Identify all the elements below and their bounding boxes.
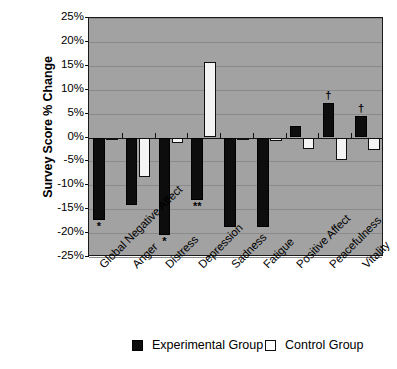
bar-experimental[interactable] bbox=[355, 116, 367, 138]
y-tick-label: -15% bbox=[40, 201, 84, 213]
gridline bbox=[89, 18, 382, 19]
y-tick-label: 20% bbox=[40, 34, 84, 46]
bar-control[interactable] bbox=[270, 138, 282, 142]
x-tick-mark bbox=[187, 133, 188, 138]
legend-label: Experimental Group bbox=[152, 338, 263, 352]
y-tick-label: -20% bbox=[40, 225, 84, 237]
bar-experimental[interactable] bbox=[224, 138, 236, 227]
y-tick-label: -5% bbox=[40, 153, 84, 165]
x-tick-mark bbox=[220, 133, 221, 138]
bar-experimental[interactable] bbox=[290, 126, 302, 138]
x-tick-mark bbox=[351, 133, 352, 138]
x-tick-mark bbox=[286, 133, 287, 138]
y-tick-label: 5% bbox=[40, 106, 84, 118]
gridline bbox=[89, 42, 382, 43]
bar-experimental[interactable] bbox=[191, 138, 203, 200]
bar-control[interactable] bbox=[303, 138, 315, 150]
gridline bbox=[89, 114, 382, 115]
x-tick-mark bbox=[122, 133, 123, 138]
y-tick-label: 15% bbox=[40, 58, 84, 70]
bar-experimental[interactable] bbox=[323, 103, 335, 138]
x-tick-mark bbox=[155, 133, 156, 138]
legend-label: Control Group bbox=[285, 338, 364, 352]
bar-experimental[interactable] bbox=[257, 138, 269, 227]
y-tick-label: -25% bbox=[40, 249, 84, 261]
significance-marker: * bbox=[87, 221, 111, 232]
x-tick-mark bbox=[253, 133, 254, 138]
bar-experimental[interactable] bbox=[159, 138, 171, 235]
bar-control[interactable] bbox=[336, 138, 348, 161]
bar-control[interactable] bbox=[139, 138, 151, 178]
bar-chart: Survey Score % Change 25%20%15%10%5%0%-5… bbox=[0, 0, 397, 369]
bar-experimental[interactable] bbox=[93, 138, 105, 221]
control-swatch bbox=[265, 340, 276, 351]
gridline bbox=[89, 66, 382, 67]
y-tick-label: 10% bbox=[40, 82, 84, 94]
bar-control[interactable] bbox=[368, 138, 380, 151]
bar-experimental[interactable] bbox=[126, 138, 138, 206]
x-tick-mark bbox=[318, 133, 319, 138]
significance-marker: ** bbox=[185, 201, 209, 212]
y-tick-label: 25% bbox=[40, 10, 84, 22]
legend-entry[interactable]: Experimental Group bbox=[132, 336, 263, 354]
bar-control[interactable] bbox=[172, 138, 184, 144]
bar-control[interactable] bbox=[106, 138, 118, 140]
chart-legend: Experimental GroupControl Group bbox=[0, 336, 397, 358]
bar-control[interactable] bbox=[204, 62, 216, 137]
significance-marker: † bbox=[349, 103, 373, 114]
significance-marker: † bbox=[316, 90, 340, 101]
legend-entry[interactable]: Control Group bbox=[265, 336, 364, 354]
bar-control[interactable] bbox=[237, 138, 249, 141]
experimental-swatch bbox=[132, 340, 143, 351]
y-tick-label: 0% bbox=[40, 130, 84, 142]
y-tick-label: -10% bbox=[40, 177, 84, 189]
